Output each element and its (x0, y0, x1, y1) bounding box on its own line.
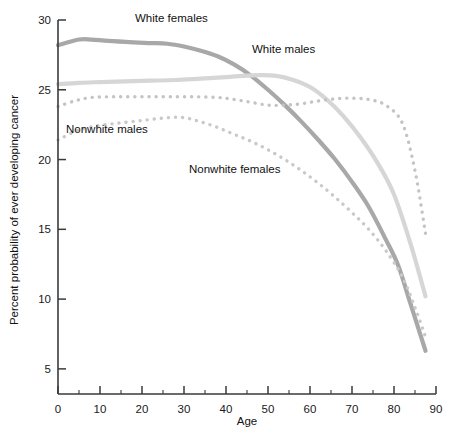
y-axis-title: Percent probability of ever developing c… (8, 95, 20, 325)
x-tick-label: 70 (346, 403, 359, 415)
y-tick-label: 20 (38, 154, 51, 166)
series-label-1: White males (252, 43, 316, 55)
y-tick-label: 10 (38, 293, 51, 305)
x-tick-label: 80 (388, 403, 401, 415)
x-tick-label: 40 (220, 403, 233, 415)
series-label-3: Nonwhite females (189, 163, 281, 175)
x-axis-title: Age (237, 415, 257, 427)
series-label-0: White females (135, 12, 208, 24)
series-lines-group (58, 39, 426, 351)
x-tick-label: 50 (262, 403, 275, 415)
y-tick-label: 15 (38, 223, 51, 235)
y-tick-label: 5 (45, 363, 51, 375)
series-label-2: Nonwhite males (66, 123, 148, 135)
x-tick-label: 0 (55, 403, 61, 415)
x-tick-label: 30 (178, 403, 191, 415)
x-tick-label: 20 (136, 403, 149, 415)
series-line-1 (58, 75, 426, 296)
x-tick-label: 10 (94, 403, 107, 415)
x-tick-label: 60 (304, 403, 317, 415)
chart-figure: 010203040506070809051015202530 White fem… (0, 0, 456, 437)
x-tick-label: 90 (430, 403, 443, 415)
y-tick-label: 30 (38, 14, 51, 26)
series-labels-group: White femalesWhite malesNonwhite malesNo… (66, 12, 316, 175)
series-line-0 (58, 39, 426, 351)
chart-canvas: 010203040506070809051015202530 White fem… (0, 0, 456, 437)
y-tick-label: 25 (38, 84, 51, 96)
